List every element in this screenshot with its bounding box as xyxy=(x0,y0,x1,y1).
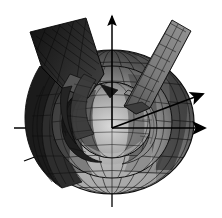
surface-plot-canvas xyxy=(0,0,222,218)
figure-root: Grayscale rendered 3D parametric surface… xyxy=(0,0,222,218)
